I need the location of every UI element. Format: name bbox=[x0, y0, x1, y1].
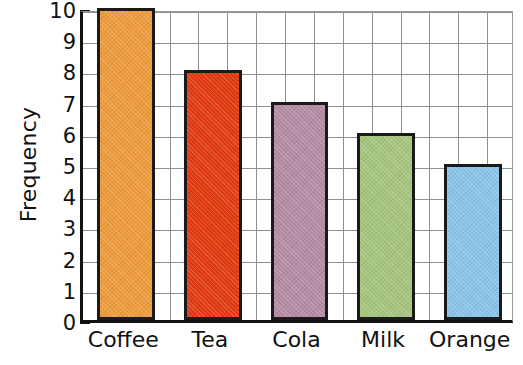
bar-texture bbox=[100, 11, 152, 317]
x-axis-label-cola: Cola bbox=[272, 327, 320, 353]
y-axis-tick-label: 2 bbox=[63, 250, 76, 271]
y-axis-tick-label: 8 bbox=[63, 63, 76, 84]
bar-texture bbox=[187, 73, 239, 317]
bars-layer bbox=[83, 12, 512, 320]
y-axis-tick-label: 3 bbox=[63, 219, 76, 240]
bar-texture bbox=[447, 167, 499, 317]
y-axis-title: Frequency bbox=[16, 65, 41, 265]
y-axis-tick-label: 0 bbox=[63, 313, 76, 334]
bar-texture bbox=[360, 136, 412, 317]
x-axis-label-orange: Orange bbox=[429, 327, 510, 353]
bar-milk bbox=[357, 133, 415, 320]
y-axis-tick-label: 4 bbox=[63, 188, 76, 209]
y-axis-tick-labels: 012345678910 bbox=[40, 11, 76, 323]
bar-tea bbox=[184, 70, 242, 320]
y-axis-tick-label: 10 bbox=[49, 1, 76, 22]
x-axis-label-tea: Tea bbox=[192, 327, 229, 353]
bar-coffee bbox=[97, 8, 155, 320]
y-axis-tick-label: 9 bbox=[63, 32, 76, 53]
y-axis-tick-label: 5 bbox=[63, 157, 76, 178]
bar-chart: Frequency 012345678910 CoffeeTeaColaMilk… bbox=[0, 0, 523, 365]
bar-cola bbox=[271, 102, 329, 320]
y-axis-tick-label: 1 bbox=[63, 281, 76, 302]
bar-orange bbox=[444, 164, 502, 320]
x-axis-label-coffee: Coffee bbox=[88, 327, 159, 353]
y-axis-tick-label: 7 bbox=[63, 94, 76, 115]
y-axis-tick-label: 6 bbox=[63, 125, 76, 146]
plot-area bbox=[80, 11, 513, 323]
x-axis-label-milk: Milk bbox=[361, 327, 405, 353]
x-axis-category-labels: CoffeeTeaColaMilkOrange bbox=[80, 327, 513, 365]
bar-texture bbox=[274, 105, 326, 317]
